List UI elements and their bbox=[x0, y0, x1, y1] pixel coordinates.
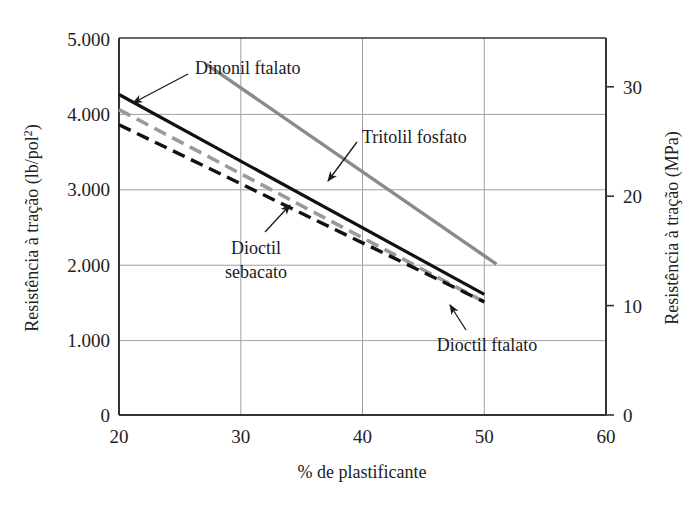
ytick-right-label-30: 30 bbox=[623, 77, 642, 98]
xtick-label-50: 50 bbox=[475, 426, 494, 447]
ytick-label-5000: 5.000 bbox=[67, 29, 110, 50]
annotation-label-dinonil-ftalato: Dinonil ftalato bbox=[195, 58, 300, 78]
ytick-label-2000: 2.000 bbox=[67, 255, 110, 276]
xtick-label-60: 60 bbox=[597, 426, 616, 447]
annotation-label-dioctil-sebacato-line1: Dioctil bbox=[231, 238, 281, 258]
ytick-label-4000: 4.000 bbox=[67, 104, 110, 125]
ytick-label-3000: 3.000 bbox=[67, 179, 110, 200]
x-axis-title: % de plastificante bbox=[298, 462, 427, 482]
y-axis-left-title-close: ) bbox=[22, 124, 43, 130]
annotation-label-tritolil-fosfato: Tritolil fosfato bbox=[362, 127, 467, 147]
xtick-label-20: 20 bbox=[110, 426, 129, 447]
xtick-label-30: 30 bbox=[231, 426, 250, 447]
tensile-strength-plasticizer-chart: Dinonil ftalato Tritolil fosfato Dioctil… bbox=[0, 0, 697, 509]
ytick-label-0: 0 bbox=[101, 405, 111, 426]
y-axis-left-title-group: Resistência à tração (lb/pol2) bbox=[21, 124, 43, 331]
ytick-right-label-10: 10 bbox=[623, 296, 642, 317]
annotation-label-dioctil-sebacato-line2: sebacato bbox=[225, 262, 287, 282]
ytick-right-label-0: 0 bbox=[623, 405, 633, 426]
xtick-label-40: 40 bbox=[353, 426, 372, 447]
y-axis-right-title: Resistência à tração (MPa) bbox=[662, 131, 683, 324]
y-axis-right-title-group: Resistência à tração (MPa) bbox=[662, 131, 683, 324]
ytick-right-label-20: 20 bbox=[623, 186, 642, 207]
ytick-label-1000: 1.000 bbox=[67, 330, 110, 351]
y-axis-left-title: Resistência à tração (lb/pol2) bbox=[21, 124, 43, 331]
chart-svg: Dinonil ftalato Tritolil fosfato Dioctil… bbox=[0, 0, 697, 509]
y-axis-left-title-main: Resistência à tração (lb/pol bbox=[22, 136, 43, 331]
annotation-label-dioctil-ftalato: Dioctil ftalato bbox=[437, 335, 537, 355]
